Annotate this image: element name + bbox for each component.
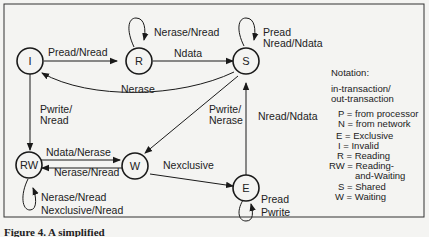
state-label-r: R xyxy=(135,55,143,67)
label-i-r: Pread/Nread xyxy=(48,46,108,58)
figure-caption: Figure 4. A simplified xyxy=(4,226,105,237)
state-label-w: W xyxy=(130,160,141,172)
loop-s xyxy=(239,18,255,46)
edge-w-e xyxy=(150,174,233,186)
label-rw-loop-1: Nerase/Nread xyxy=(41,191,107,203)
label-e-s: Nread/Ndata xyxy=(258,110,318,122)
label-r-loop: Nerase/Nread xyxy=(154,26,220,38)
state-label-e: E xyxy=(242,182,249,194)
label-rw-loop-2: Nexclusive/Nread xyxy=(41,204,123,216)
loop-e xyxy=(239,200,252,221)
notation-rw2: and-Waiting xyxy=(355,170,405,181)
label-s-loop-2: Nread/Ndata xyxy=(263,37,323,49)
label-w-e: Nexclusive xyxy=(163,159,214,171)
notation-line2: out-transaction xyxy=(331,93,394,104)
label-s-i: Nerase xyxy=(121,83,155,95)
state-diagram: I R S RW W E Pread/Nread Nerase/Nread Nd… xyxy=(0,0,429,237)
label-rw-w: Ndata/Nerase xyxy=(46,146,111,158)
label-w-rw: Nerase/Nread xyxy=(54,166,120,178)
state-label-s: S xyxy=(242,55,249,67)
notation-title: Notation: xyxy=(331,67,369,78)
notation-legend: Notation: in-transaction/ out-transactio… xyxy=(329,67,418,202)
state-label-rw: RW xyxy=(20,159,39,171)
state-label-i: I xyxy=(28,55,31,67)
label-s-w-2: Nerase xyxy=(209,114,243,126)
notation-w: W = Waiting xyxy=(335,191,386,202)
label-e-loop-2: Pwrite xyxy=(261,206,290,218)
loop-r xyxy=(129,18,145,47)
label-e-loop-1: Pread xyxy=(261,193,289,205)
loop-rw xyxy=(23,179,36,210)
label-i-rw-2: Nread xyxy=(40,114,69,126)
label-r-s: Ndata xyxy=(174,47,202,59)
notation-n: N = from network xyxy=(338,118,411,129)
